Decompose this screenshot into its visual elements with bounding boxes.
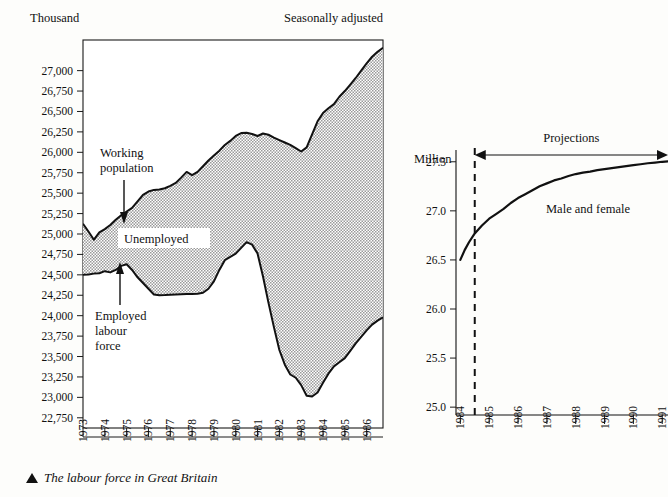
- y-tick-label: 24,500: [41, 269, 73, 282]
- x-tick-label: 1973: [77, 419, 89, 442]
- left-caption: The labour force in Great Britain: [26, 470, 217, 486]
- right-y-axis-ticks: 25.025.526.026.527.027.5: [426, 156, 456, 413]
- y-tick-label: 27.5: [426, 156, 446, 168]
- unemployed-label: Unemployed: [124, 232, 189, 246]
- y-tick-label: 26,500: [41, 105, 73, 118]
- x-tick-label: 1991: [656, 406, 668, 429]
- projections-arrow-left: [475, 150, 486, 160]
- y-tick-label: 23,500: [41, 351, 73, 364]
- projections-chart: Million Projections Male and female 25.0…: [400, 0, 668, 460]
- svg-text:population: population: [100, 161, 154, 175]
- x-tick-label: 1985: [483, 406, 495, 429]
- y-tick-label: 25,500: [41, 187, 73, 200]
- x-tick-label: 1975: [121, 419, 133, 442]
- svg-text:Working: Working: [100, 146, 144, 160]
- unemployed-annotation: Unemployed: [118, 228, 210, 248]
- x-tick-label: 1989: [599, 406, 611, 429]
- x-tick-label: 1984: [317, 419, 329, 442]
- y-tick-label: 25,750: [41, 167, 73, 180]
- y-tick-label: 26.5: [426, 254, 446, 266]
- svg-text:force: force: [95, 339, 121, 353]
- x-tick-label: 1981: [252, 419, 264, 442]
- triangle-marker-icon: [26, 473, 38, 483]
- y-tick-label: 27,000: [41, 65, 73, 78]
- y-tick-label: 24,000: [41, 310, 73, 323]
- x-tick-label: 1986: [361, 419, 373, 442]
- x-tick-label: 1978: [186, 419, 198, 442]
- x-tick-label: 1988: [570, 406, 582, 429]
- x-tick-label: 1984: [454, 406, 466, 429]
- y-tick-label: 26.0: [426, 303, 446, 315]
- x-tick-label: 1985: [339, 419, 351, 442]
- projections-label: Projections: [543, 131, 599, 145]
- y-tick-label: 25,000: [41, 228, 73, 241]
- y-tick-label: 24,250: [41, 289, 73, 302]
- y-tick-label: 23,250: [41, 371, 73, 384]
- left-y-unit-label: Thousand: [30, 11, 80, 25]
- y-tick-label: 25,250: [41, 208, 73, 221]
- y-tick-label: 23,750: [41, 330, 73, 343]
- svg-text:labour: labour: [95, 324, 128, 338]
- x-tick-label: 1980: [230, 419, 242, 442]
- x-tick-label: 1990: [627, 406, 639, 429]
- x-tick-label: 1987: [541, 406, 553, 429]
- x-tick-label: 1982: [273, 419, 285, 442]
- x-tick-label: 1976: [142, 419, 154, 442]
- y-tick-label: 25.0: [426, 401, 446, 413]
- left-caption-text: The labour force in Great Britain: [44, 470, 217, 486]
- y-tick-label: 25.5: [426, 352, 446, 364]
- x-tick-label: 1986: [512, 406, 524, 429]
- right-x-axis-ticks: 19841985198619871988198919901991: [454, 406, 668, 429]
- seasonally-adjusted-note: Seasonally adjusted: [284, 11, 384, 25]
- svg-text:Employed: Employed: [95, 309, 147, 323]
- y-tick-label: 27.0: [426, 205, 446, 217]
- x-tick-label: 1977: [164, 419, 176, 442]
- y-tick-label: 23,000: [41, 391, 73, 404]
- left-chart-panel: Thousand Seasonally adjusted 22,75023,00…: [0, 0, 400, 497]
- x-tick-label: 1979: [208, 419, 220, 442]
- male-and-female-label: Male and female: [546, 202, 630, 216]
- x-tick-label: 1974: [99, 419, 111, 442]
- y-tick-label: 26,750: [41, 85, 73, 98]
- y-tick-label: 24,750: [41, 248, 73, 261]
- projections-arrow-right: [657, 150, 668, 160]
- left-y-axis-ticks: 22,75023,00023,25023,50023,75024,00024,2…: [41, 65, 83, 425]
- y-tick-label: 26,250: [41, 126, 73, 139]
- labour-force-chart: Thousand Seasonally adjusted 22,75023,00…: [0, 0, 400, 460]
- y-tick-label: 22,750: [41, 412, 73, 425]
- right-chart-panel: Million Projections Male and female 25.0…: [400, 0, 668, 497]
- x-tick-label: 1983: [295, 419, 307, 442]
- y-tick-label: 26,000: [41, 146, 73, 159]
